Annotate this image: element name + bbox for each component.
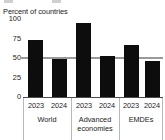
crop-artifact-mark [4,0,13,3]
year-label-advanced-2023: 2023 [73,102,95,110]
year-label-world-2024: 2024 [48,102,70,110]
group-label-emdes: EMDEs [120,115,162,124]
bar-advanced-2024 [100,56,115,97]
year-label-world-2023: 2023 [25,102,47,110]
bar-world-2023 [28,40,43,97]
plot-area: 100 75 50 25 0 [23,19,163,97]
category-label-band: 2023 2024 2023 2024 2023 2024 World Adva… [23,98,163,140]
year-label-emdes-2024: 2024 [141,102,163,110]
year-label-emdes-2023: 2023 [120,102,142,110]
y-tick-label-0: 0 [17,93,21,100]
group-label-world: World [24,115,70,124]
bar-advanced-2023 [76,23,91,97]
y-tick-label-75: 75 [13,35,21,42]
bar-emdes-2023 [124,45,139,97]
bar-chart-figure: Percent of countries 100 75 50 25 0 2023… [0,0,165,140]
bar-emdes-2024 [145,61,160,97]
group-label-advanced: Advanced economies [72,115,118,133]
y-tick-label-25: 25 [13,74,21,81]
year-label-advanced-2024: 2024 [96,102,118,110]
bar-world-2024 [52,59,67,97]
crop-artifact-mark [52,0,61,3]
y-tick-label-100: 100 [9,15,21,22]
